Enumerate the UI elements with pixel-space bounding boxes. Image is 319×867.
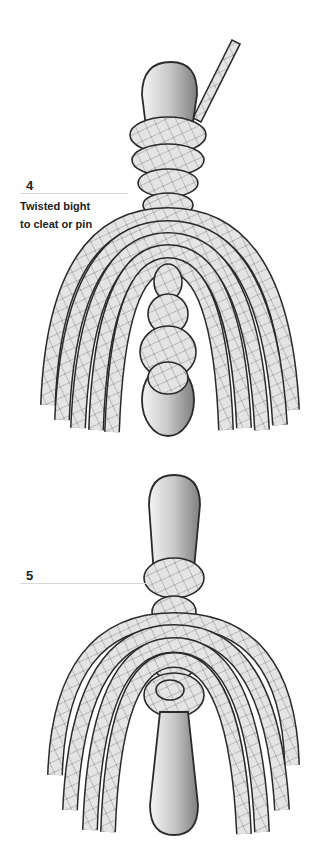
step-number: 5 (26, 568, 33, 583)
caption-line-1: Twisted bight (20, 197, 92, 215)
caption-line-2: to cleat or pin (20, 215, 92, 233)
step-5-illustration (55, 475, 292, 835)
step-number: 4 (26, 178, 33, 193)
knot-illustration (0, 0, 319, 867)
step-caption: Twisted bight to cleat or pin (20, 197, 92, 233)
belaying-pin-lower (150, 712, 198, 835)
leader-line (20, 193, 128, 194)
step-4-illustration (48, 40, 292, 436)
leader-line (20, 583, 150, 584)
